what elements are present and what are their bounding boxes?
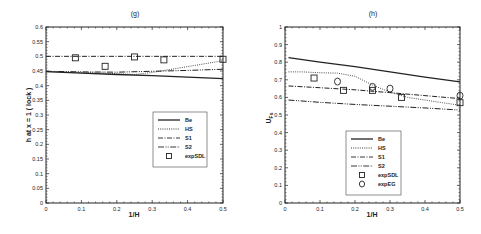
marker-expSDL bbox=[161, 57, 167, 63]
chart-g-xlabel: 1/H bbox=[129, 211, 140, 218]
series-S2 bbox=[46, 69, 223, 72]
y-tick-label: 0.05 bbox=[32, 185, 43, 191]
chart-g-ylabel: h at x = 1 ( lock ) bbox=[25, 88, 33, 143]
y-tick-label: 0.2 bbox=[274, 165, 282, 171]
y-tick-label: 0.1 bbox=[35, 171, 43, 177]
legend-label: S2 bbox=[185, 144, 192, 150]
y-tick-label: 1 bbox=[279, 24, 282, 30]
x-tick-label: 0.1 bbox=[78, 206, 86, 212]
x-tick-label: 0.5 bbox=[456, 206, 464, 212]
chart-h-ylabel: UFs bbox=[265, 112, 274, 123]
y-tick-label: 0.3 bbox=[274, 147, 282, 153]
legend-label: expSDL bbox=[378, 172, 399, 178]
marker-expSDL bbox=[72, 55, 78, 61]
legend-label: expSDL bbox=[185, 153, 206, 159]
legend-label: S2 bbox=[378, 163, 385, 169]
chart-h-xlabel: 1/H bbox=[367, 211, 378, 218]
chart-h: (h) 1/H UFs 00.10.20.30.40.500.10.20.30.… bbox=[265, 10, 464, 218]
y-tick-label: 0.5 bbox=[35, 53, 43, 59]
chart-g-title: (g) bbox=[131, 10, 140, 18]
legend-label: HS bbox=[185, 126, 193, 132]
legend-label: S1 bbox=[378, 154, 385, 160]
y-tick-label: 0.3 bbox=[35, 112, 43, 118]
chart-g: (g) 1/H h at x = 1 ( lock ) 00.10.20.30.… bbox=[25, 10, 227, 218]
y-tick-label: 0.25 bbox=[32, 127, 43, 133]
series-S2 bbox=[289, 100, 461, 110]
marker-expSDL bbox=[311, 75, 317, 81]
x-tick-label: 0.2 bbox=[113, 206, 121, 212]
y-tick-label: 0.4 bbox=[35, 83, 43, 89]
chart-h-ylabel-sub: Fs bbox=[268, 112, 274, 118]
marker-expSDL bbox=[102, 63, 108, 69]
x-tick-label: 0.2 bbox=[351, 206, 359, 212]
legend-label: expEG bbox=[378, 181, 395, 187]
y-tick-label: 0.9 bbox=[274, 42, 282, 48]
series-HS bbox=[289, 72, 461, 105]
y-tick-label: 0.2 bbox=[35, 141, 43, 147]
legend-label: Be bbox=[378, 136, 385, 142]
y-tick-label: 0.45 bbox=[32, 68, 43, 74]
x-tick-label: 0 bbox=[44, 206, 47, 212]
y-tick-label: 0.6 bbox=[35, 24, 43, 30]
marker-expEG bbox=[387, 85, 393, 92]
legend-label: S1 bbox=[185, 135, 192, 141]
x-tick-label: 0.4 bbox=[421, 206, 429, 212]
x-tick-label: 0 bbox=[283, 206, 286, 212]
marker-expEG bbox=[370, 83, 376, 90]
y-tick-label: 0 bbox=[40, 200, 43, 206]
y-tick-label: 0.6 bbox=[274, 94, 282, 100]
y-tick-label: 0.5 bbox=[274, 112, 282, 118]
x-tick-label: 0.1 bbox=[316, 206, 324, 212]
series-HS bbox=[46, 61, 223, 75]
y-tick-label: 0 bbox=[279, 200, 282, 206]
x-tick-label: 0.4 bbox=[184, 206, 192, 212]
y-tick-label: 0.15 bbox=[32, 156, 43, 162]
chart-h-title: (h) bbox=[369, 10, 378, 18]
x-tick-label: 0.5 bbox=[219, 206, 227, 212]
y-tick-label: 0.55 bbox=[32, 39, 43, 45]
series-S1 bbox=[289, 86, 461, 99]
y-tick-label: 0.8 bbox=[274, 59, 282, 65]
marker-expSDL bbox=[132, 54, 138, 60]
series-Be bbox=[289, 58, 461, 82]
y-tick-label: 0.4 bbox=[274, 130, 282, 136]
legend: BeHSS1S2expSDL bbox=[153, 112, 207, 167]
legend-label: HS bbox=[378, 145, 386, 151]
legend-label: Be bbox=[185, 117, 192, 123]
y-tick-label: 0.35 bbox=[32, 97, 43, 103]
y-tick-label: 0.1 bbox=[274, 182, 282, 188]
legend: BeHSS1S2expSDLexpEG bbox=[346, 131, 401, 195]
marker-expSDL bbox=[340, 87, 346, 93]
figure: (g) 1/H h at x = 1 ( lock ) 00.10.20.30.… bbox=[0, 0, 481, 234]
x-tick-label: 0.3 bbox=[386, 206, 394, 212]
x-tick-label: 0.3 bbox=[148, 206, 156, 212]
marker-expEG bbox=[335, 78, 341, 85]
y-tick-label: 0.7 bbox=[274, 77, 282, 83]
